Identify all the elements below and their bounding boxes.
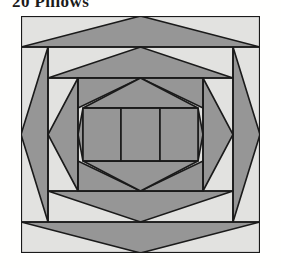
center-bar-left — [83, 108, 121, 161]
quilt-block-svg — [21, 16, 260, 253]
quilt-block-figure — [21, 16, 260, 253]
page-title: 20 Pillows — [12, 0, 89, 10]
center-bar-right — [160, 108, 198, 161]
center-bar-middle — [121, 108, 160, 161]
page-canvas: 20 Pillows — [0, 0, 281, 268]
